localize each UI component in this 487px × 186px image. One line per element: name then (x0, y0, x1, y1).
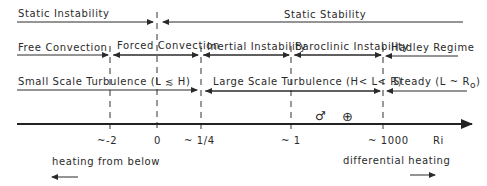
tick-1000: ~ 1000 (368, 135, 409, 146)
row-turbulence: Small Scale Turbulence (L ≲ H) Large Sca… (17, 76, 481, 91)
earth-icon: ⊕ (342, 109, 354, 124)
row-convection: Free Convection Forced Convection Inerti… (17, 40, 475, 56)
label-differential-heating: differential heating (343, 155, 451, 166)
label-forced-convection: Forced Convection (117, 40, 220, 51)
richardson-regime-diagram: Static Instability Static Stability Free… (0, 0, 487, 186)
label-static-instability: Static Instability (18, 8, 110, 19)
tick-minus-2: ~-2 (97, 135, 117, 146)
bottom-annotations: heating from below differential heating (52, 155, 451, 177)
tick-1: ~ 1 (281, 135, 301, 146)
label-free-convection: Free Convection (18, 42, 108, 53)
label-small-scale-turbulence: Small Scale Turbulence (L ≲ H) (18, 76, 191, 87)
label-hadley-regime: Hadley Regime (391, 42, 475, 53)
label-steady: Steady (L ~ Ro) (393, 76, 481, 90)
label-heating-from-below: heating from below (52, 156, 160, 167)
tick-quarter: ~ 1/4 (184, 135, 215, 146)
tick-0: 0 (154, 135, 161, 146)
ri-axis: ~-2 0 ~ 1/4 ~ 1 ~ 1000 Ri ♂ ⊕ (17, 109, 472, 146)
label-inertial-instability: Inertial Instability (207, 41, 306, 52)
label-static-stability: Static Stability (284, 9, 366, 20)
row-static: Static Instability Static Stability (17, 8, 463, 22)
mars-icon: ♂ (315, 109, 326, 123)
label-large-scale-turbulence: Large Scale Turbulence (H< L< R) (213, 76, 402, 87)
axis-label-ri: Ri (433, 135, 444, 146)
